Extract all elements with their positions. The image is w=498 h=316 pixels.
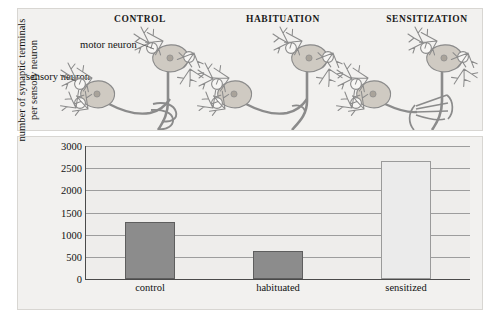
bar-control bbox=[125, 222, 175, 279]
x-axis-tick-label: control bbox=[135, 282, 165, 293]
neuron-illustrations bbox=[18, 9, 482, 130]
x-axis-tick-label: sensitized bbox=[385, 282, 426, 293]
motor-neuron-control bbox=[134, 27, 206, 90]
y-axis-tick-label: 1000 bbox=[61, 229, 82, 240]
bar-chart-panel: number of synaptic terminals per sensory… bbox=[17, 136, 483, 310]
x-axis-tick-label: habituated bbox=[256, 282, 300, 293]
y-axis-tick-label: 500 bbox=[66, 251, 82, 262]
plot-area: 050010001500200025003000controlhabituate… bbox=[85, 146, 470, 280]
sensory-neuron-control bbox=[58, 63, 115, 119]
y-axis-label-line1: number of synaptic terminals bbox=[16, 5, 28, 155]
figure-root: CONTROL HABITUATION SENSITIZATION motor … bbox=[0, 0, 498, 316]
motor-neuron-habituation bbox=[273, 27, 345, 90]
y-axis-label: number of synaptic terminals per sensory… bbox=[16, 5, 40, 155]
y-axis-tick-label: 1500 bbox=[61, 207, 82, 218]
bar-habituated bbox=[253, 251, 303, 279]
sensory-neuron-habituation bbox=[195, 63, 252, 119]
motor-neuron-sensitization bbox=[408, 27, 480, 90]
neuron-diagram-panel: CONTROL HABITUATION SENSITIZATION motor … bbox=[17, 8, 483, 131]
y-axis-tick-label: 0 bbox=[77, 274, 82, 285]
neuron-pair-sensitization bbox=[334, 27, 480, 130]
neuron-pair-habituation bbox=[195, 27, 345, 130]
y-axis-tick-label: 2000 bbox=[61, 185, 82, 196]
y-axis-label-line2: per sensory neuron bbox=[28, 5, 40, 155]
gridline bbox=[86, 146, 470, 147]
y-axis-tick-label: 2500 bbox=[61, 163, 82, 174]
sensory-neuron-sensitization bbox=[334, 63, 391, 119]
neuron-pair-control bbox=[58, 27, 206, 130]
y-axis-tick-label: 3000 bbox=[61, 141, 82, 152]
bar-sensitized bbox=[381, 161, 431, 279]
